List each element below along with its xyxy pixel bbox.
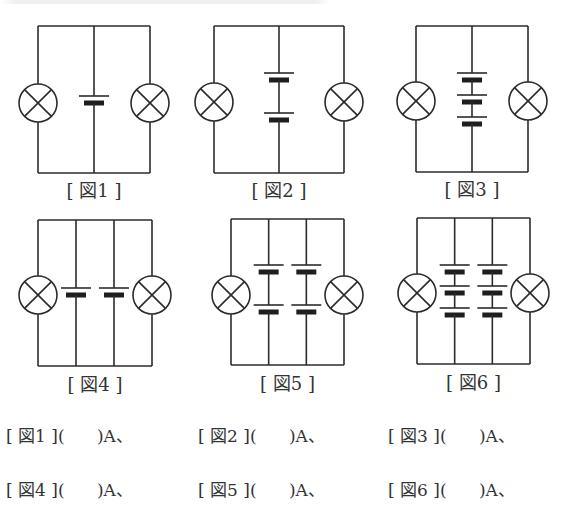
figure-label-fig2: [ 図2 ] bbox=[252, 176, 307, 202]
circuit-fig4 bbox=[19, 220, 171, 366]
circuit-fig5 bbox=[212, 219, 363, 365]
lamp-icon bbox=[133, 276, 171, 314]
lamp-icon bbox=[19, 84, 57, 122]
figure-label-fig1: [ 図1 ] bbox=[67, 176, 122, 202]
figure-label-fig6: [ 図6 ] bbox=[446, 368, 501, 394]
answer-fig2[interactable]: [ 図2 ]( )A、 bbox=[198, 422, 325, 447]
lamp-icon bbox=[325, 83, 363, 121]
lamp-icon bbox=[131, 84, 169, 122]
circuit-fig6 bbox=[398, 218, 549, 364]
lamp-icon bbox=[398, 274, 436, 312]
figure-label-fig5: [ 図5 ] bbox=[260, 369, 315, 395]
answer-fig4[interactable]: [ 図4 ]( )A、 bbox=[6, 476, 133, 501]
answer-fig1[interactable]: [ 図1 ]( )A、 bbox=[6, 422, 133, 447]
figure-label-fig3: [ 図3 ] bbox=[445, 175, 500, 201]
answer-row-2: [ 図4 ]( )A、 [ 図5 ]( )A、 [ 図6 ]( )A、 bbox=[0, 476, 562, 500]
answer-row-1: [ 図1 ]( )A、 [ 図2 ]( )A、 [ 図3 ]( )A、 bbox=[0, 422, 562, 446]
answer-fig5[interactable]: [ 図5 ]( )A、 bbox=[198, 476, 325, 501]
lamp-icon bbox=[195, 83, 233, 121]
answer-fig3[interactable]: [ 図3 ]( )A、 bbox=[388, 422, 515, 447]
circuit-fig3 bbox=[397, 26, 547, 172]
lamp-icon bbox=[19, 276, 57, 314]
lamp-icon bbox=[511, 274, 549, 312]
lamp-icon bbox=[325, 276, 363, 314]
lamp-icon bbox=[397, 82, 435, 120]
circuit-fig2 bbox=[195, 26, 363, 173]
lamp-icon bbox=[509, 82, 547, 120]
answer-fig6[interactable]: [ 図6 ]( )A、 bbox=[388, 476, 515, 501]
circuit-fig1 bbox=[19, 26, 169, 173]
figure-label-fig4: [ 図4 ] bbox=[68, 370, 123, 396]
lamp-icon bbox=[212, 276, 250, 314]
